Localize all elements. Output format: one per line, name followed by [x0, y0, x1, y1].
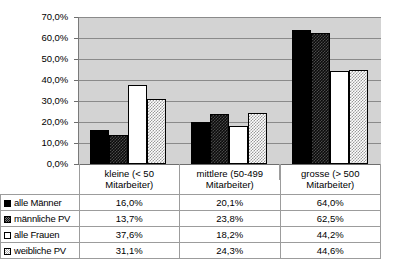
bar [330, 71, 349, 164]
bar [311, 33, 330, 164]
legend-series-label: alle Männer [14, 197, 61, 208]
table-corner-cell [1, 164, 80, 195]
legend-series-label: alle Frauen [14, 229, 59, 240]
y-axis-tick-label: 70,0% [42, 12, 68, 22]
category-header-line: Mitarbeiter) [82, 179, 178, 190]
table-header-row: kleine (< 50Mitarbeiter)mittlere (50-499… [1, 164, 381, 195]
legend-series-label: weibliche PV [14, 245, 66, 256]
y-axis-tick-label: 10,0% [42, 138, 68, 148]
data-value-cell: 18,2% [180, 227, 281, 243]
bar [229, 126, 248, 164]
data-value-cell: 23,8% [180, 211, 281, 227]
y-axis-tick-mark [74, 80, 78, 81]
data-table-body: kleine (< 50Mitarbeiter)mittlere (50-499… [1, 164, 381, 259]
data-value-cell: 31,1% [79, 243, 180, 259]
category-header-2: mittlere (50-499Mitarbeiter) [180, 164, 281, 195]
y-axis-tick-label: 40,0% [42, 75, 68, 85]
legend-swatch-icon [4, 216, 11, 223]
data-value-cell: 64,0% [280, 195, 381, 211]
bar [109, 135, 128, 164]
y-axis-tick-label: 20,0% [42, 117, 68, 127]
chart-screenshot: 0,0%10,0%20,0%30,0%40,0%50,0%60,0%70,0% … [0, 0, 402, 261]
legend-cell: alle Frauen [1, 227, 80, 243]
table-row: weibliche PV31,1%24,3%44,6% [1, 243, 381, 259]
category-header-1: kleine (< 50Mitarbeiter) [79, 164, 180, 195]
data-value-cell: 16,0% [79, 195, 180, 211]
category-header-line: mittlere (50-499 [182, 168, 278, 179]
y-axis-tick-mark [74, 59, 78, 60]
y-axis-tick-mark [74, 38, 78, 39]
table-row: männliche PV13,7%23,8%62,5% [1, 211, 381, 227]
bar [128, 85, 147, 164]
category-header-3: grosse (> 500Mitarbeiter) [280, 164, 381, 195]
y-axis-tick-mark [74, 17, 78, 18]
y-axis-tick-label: 60,0% [42, 33, 68, 43]
bar [147, 99, 166, 164]
legend-swatch-icon [4, 200, 11, 207]
y-axis-tick-label: 50,0% [42, 54, 68, 64]
table-row: alle Frauen37,6%18,2%44,2% [1, 227, 381, 243]
y-axis-tick-labels: 0,0%10,0%20,0%30,0%40,0%50,0%60,0%70,0% [0, 0, 74, 180]
legend-cell: weibliche PV [1, 243, 80, 259]
data-value-cell: 13,7% [79, 211, 180, 227]
bar-chart: 0,0%10,0%20,0%30,0%40,0%50,0%60,0%70,0% [0, 0, 402, 180]
bar [292, 30, 311, 164]
data-value-cell: 44,6% [280, 243, 381, 259]
bars-layer [78, 17, 380, 164]
legend-cell: männliche PV [1, 211, 80, 227]
y-axis-tick-label: 30,0% [42, 96, 68, 106]
category-header-line: Mitarbeiter) [182, 179, 278, 190]
category-header-line: grosse (> 500 [283, 168, 379, 179]
table-row: alle Männer16,0%20,1%64,0% [1, 195, 381, 211]
bar [191, 122, 210, 164]
category-header-line: Mitarbeiter) [283, 179, 379, 190]
y-axis-tick-mark [74, 101, 78, 102]
legend-swatch-icon [4, 248, 11, 255]
data-value-cell: 24,3% [180, 243, 281, 259]
y-axis-tick-mark [74, 122, 78, 123]
y-axis-tick-mark [74, 143, 78, 144]
data-value-cell: 20,1% [180, 195, 281, 211]
data-table: kleine (< 50Mitarbeiter)mittlere (50-499… [0, 164, 381, 259]
bar [90, 130, 109, 164]
bar [210, 114, 229, 164]
bar [248, 113, 267, 164]
legend-swatch-icon [4, 232, 11, 239]
data-value-cell: 37,6% [79, 227, 180, 243]
legend-cell: alle Männer [1, 195, 80, 211]
bar [349, 70, 368, 164]
category-header-line: kleine (< 50 [82, 168, 178, 179]
legend-series-label: männliche PV [14, 213, 70, 224]
data-value-cell: 62,5% [280, 211, 381, 227]
data-value-cell: 44,2% [280, 227, 381, 243]
